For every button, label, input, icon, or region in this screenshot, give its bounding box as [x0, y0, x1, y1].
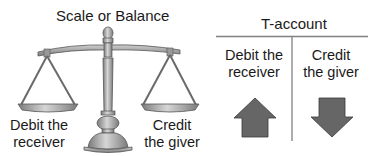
t-account-credit-line1: Credit — [296, 47, 366, 64]
t-account-debit-line2: receiver — [219, 64, 289, 81]
scale-debit-line1: Debit the — [2, 117, 76, 134]
scale-debit-line2: receiver — [2, 134, 76, 151]
scale-credit-line1: Credit — [142, 117, 202, 134]
t-account-title: T-account — [261, 15, 327, 32]
t-account-credit-line2: the giver — [296, 64, 366, 81]
scale-title: Scale or Balance — [56, 7, 169, 24]
scale-credit-line2: the giver — [142, 134, 202, 151]
arrow-down-icon — [311, 98, 353, 137]
arrow-up-icon — [234, 98, 276, 137]
t-account-debit-line1: Debit the — [219, 47, 289, 64]
t-account-debit-label: Debit the receiver — [219, 47, 289, 81]
scale-debit-label: Debit the receiver — [2, 117, 76, 151]
scale-credit-label: Credit the giver — [142, 117, 202, 151]
t-account-credit-label: Credit the giver — [296, 47, 366, 81]
